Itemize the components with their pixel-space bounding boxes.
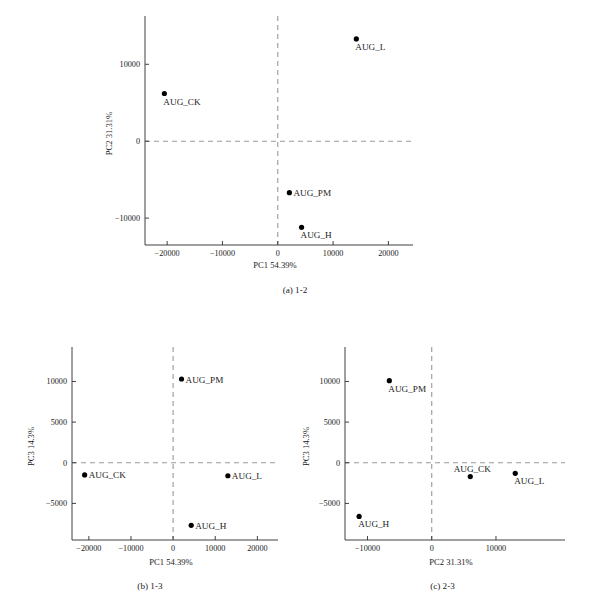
data-point [357,514,362,519]
panel-a-pc1-pc2: −20000−1000001000020000100000−10000PC1 5… [0,0,590,310]
x-tick-label: −20000 [155,249,180,258]
y-axis-title: PC3 14.3% [301,427,311,466]
panel-c-plot: −100000100001000050000−5000PC2 31.31%PC3… [295,325,590,573]
data-point-label: AUG_H [195,521,226,531]
y-tick-label: 0 [136,137,140,146]
data-point [189,523,194,528]
data-point [162,91,167,96]
data-point [299,225,304,230]
panel-c-caption: (c) 2-3 [295,581,590,591]
data-point [225,473,230,478]
data-point-label: AUG_PM [293,188,331,198]
y-tick-label: −5000 [319,499,340,508]
panel-a-caption: (a) 1-2 [0,285,590,295]
y-tick-label: 10000 [47,377,67,386]
panel-b-pc1-pc3: −20000−10000010000200001000050000−5000PC… [0,325,300,603]
x-tick-label: −10000 [210,249,235,258]
x-axis-title: PC1 54.39% [253,260,296,270]
data-point-label: AUG_L [355,42,385,52]
data-point-label: AUG_CK [163,97,201,107]
x-axis-title: PC2 31.31% [429,557,472,567]
x-tick-label: 10000 [205,544,225,553]
x-tick-label: 0 [171,544,175,553]
panel-b-caption: (b) 1-3 [0,581,300,591]
data-point-label: AUG_L [232,471,262,481]
data-point [287,190,292,195]
data-point [82,472,87,477]
x-tick-label: 20000 [378,249,398,258]
x-tick-label: 0 [276,249,280,258]
y-tick-label: −10000 [115,214,140,223]
x-tick-label: 0 [430,544,434,553]
data-point [179,376,184,381]
y-tick-label: −5000 [46,499,67,508]
data-point [354,36,359,41]
y-tick-label: 5000 [324,418,340,427]
y-tick-label: 5000 [51,418,67,427]
y-tick-label: 10000 [120,60,140,69]
x-tick-label: 20000 [247,544,267,553]
data-point-label: AUG_CK [454,464,492,474]
y-axis-title: PC3 14.3% [26,427,36,466]
x-tick-label: −20000 [76,544,101,553]
data-point [387,378,392,383]
data-point-label: AUG_H [358,519,389,529]
data-point-label: AUG_H [301,230,332,240]
x-tick-label: 10000 [486,544,506,553]
panel-a-plot: −20000−1000001000020000100000−10000PC1 5… [0,0,590,275]
x-tick-label: −10000 [355,544,380,553]
x-axis-title: PC1 54.39% [149,557,192,567]
data-point [513,471,518,476]
data-point-label: AUG_CK [89,470,127,480]
panel-b-plot: −20000−10000010000200001000050000−5000PC… [0,325,300,573]
data-point-label: AUG_PM [388,384,426,394]
y-axis-title: PC2 31.31% [104,112,114,155]
x-tick-label: −10000 [118,544,143,553]
y-tick-label: 0 [63,459,67,468]
y-tick-label: 10000 [320,377,340,386]
data-point-label: AUG_L [514,476,544,486]
pca-figure: −20000−1000001000020000100000−10000PC1 5… [0,0,590,603]
data-point-label: AUG_PM [186,375,224,385]
data-point [468,474,473,479]
y-tick-label: 0 [336,459,340,468]
panel-c-pc2-pc3: −100000100001000050000−5000PC2 31.31%PC3… [295,325,590,603]
x-tick-label: 10000 [323,249,343,258]
